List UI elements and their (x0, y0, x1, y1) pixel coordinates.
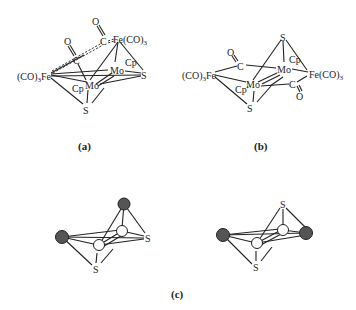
oxygen-upper-label: O (92, 16, 99, 27)
panel-c-right: S S (217, 199, 313, 273)
cluster-diagram: (CO)3Fe Fe(CO)3 C O C O Mo Cp S Mo Cp S … (0, 0, 356, 310)
sulfur-bottom-label: S (83, 105, 89, 116)
molybdenum-lower-label: Mo (85, 80, 99, 91)
oxygen-lower-label: O (64, 36, 71, 47)
sulfur-top-label: S (280, 32, 286, 43)
molybdenum-atom-back (278, 225, 289, 236)
molybdenum-upper-label: Mo (110, 65, 124, 76)
sulfur-top-label: S (280, 199, 286, 210)
iron-atom-right (300, 227, 313, 240)
sulfur-bottom-label: S (93, 264, 99, 275)
panel-b: S O C Mo Cp (CO)3Fe Fe(CO)3 Mo Cp' C O S… (182, 32, 344, 153)
panel-a: (CO)3Fe Fe(CO)3 C O C O Mo Cp S Mo Cp S … (17, 16, 148, 153)
molybdenum-upper-label: Mo (277, 64, 291, 75)
carbon-right-label: C (289, 79, 296, 90)
oxygen-right-label: O (296, 91, 303, 102)
molybdenum-atom-front (252, 238, 263, 249)
panel-c-left: S S (56, 198, 151, 275)
caption-c: (c) (171, 288, 184, 301)
cp-upper-label: Cp (289, 54, 301, 65)
sulfur-right-label: S (145, 233, 151, 244)
fe-co3-left-label: (CO)3Fe (182, 70, 217, 83)
caption-a: (a) (78, 140, 91, 153)
carbon-left-label: C (237, 61, 244, 72)
oxygen-left-label: O (227, 47, 234, 58)
carbon-lower-label: C (73, 55, 80, 66)
molybdenum-atom-back (117, 226, 128, 237)
sulfur-right-label: S (141, 70, 147, 81)
cp-upper-label: Cp (125, 57, 137, 68)
caption-b: (b) (254, 140, 268, 153)
iron-atom-left (217, 229, 230, 242)
iron-atom-left (56, 231, 69, 244)
sulfur-bottom-label: S (247, 103, 253, 114)
cp-prime-lower-label: Cp' (235, 84, 249, 95)
carbon-upper-label: C (100, 36, 107, 47)
fe-co3-top-label: Fe(CO)3 (113, 34, 148, 47)
cp-lower-label: Cp (72, 83, 84, 94)
sulfur-bottom-label: S (253, 262, 259, 273)
molybdenum-atom-front (94, 240, 105, 251)
fe-co3-right-label: Fe(CO)3 (309, 69, 344, 82)
fe-co3-left-label: (CO)3Fe (17, 71, 52, 84)
iron-atom-top (118, 198, 130, 210)
